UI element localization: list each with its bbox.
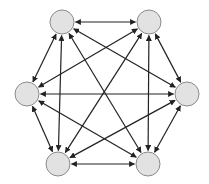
edge-n2-n6 xyxy=(148,36,149,151)
node-n1 xyxy=(50,10,74,34)
complete-graph-diagram xyxy=(0,0,209,184)
edge-n1-n3 xyxy=(33,34,56,82)
edge-n1-n5 xyxy=(58,36,61,151)
nodes-layer xyxy=(15,10,199,176)
edge-n3-n5 xyxy=(33,106,53,151)
node-n6 xyxy=(136,152,160,176)
edge-n2-n4 xyxy=(155,34,180,82)
node-n3 xyxy=(15,82,39,106)
graph-canvas xyxy=(0,0,209,184)
node-n4 xyxy=(175,82,199,106)
node-n5 xyxy=(46,152,70,176)
edge-n4-n6 xyxy=(155,106,181,152)
edges-layer xyxy=(33,22,181,164)
node-n2 xyxy=(137,10,161,34)
